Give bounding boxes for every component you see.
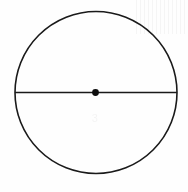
geometry-figure xyxy=(0,0,188,192)
figure-canvas: 3 xyxy=(0,0,188,192)
center-point-dot xyxy=(92,89,99,96)
